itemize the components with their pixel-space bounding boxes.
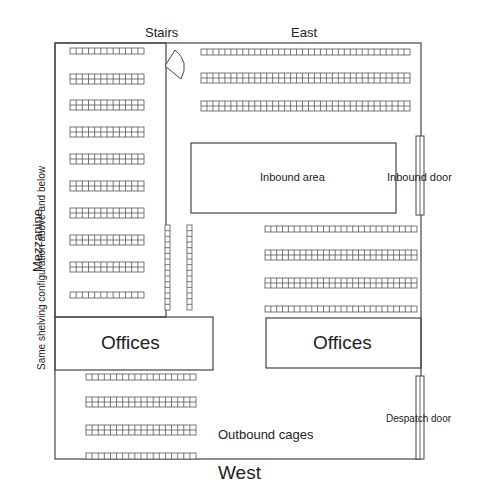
- stairs-icon: [165, 50, 184, 79]
- inbound-door-label: Inbound door: [387, 172, 452, 183]
- east-label: East: [291, 26, 317, 39]
- outbound-cages-label: Outbound cages: [218, 428, 313, 441]
- inbound-area-label: Inbound area: [260, 172, 325, 183]
- despatch-door-label: Despatch door: [386, 414, 451, 424]
- shelving-racks: [70, 48, 417, 459]
- mezzanine-note: Same shelving configuration above and be…: [37, 166, 47, 370]
- offices-left-label: Offices: [101, 333, 160, 352]
- stairs-label: Stairs: [145, 26, 178, 39]
- offices-right-label: Offices: [313, 333, 372, 352]
- west-label: West: [218, 463, 261, 482]
